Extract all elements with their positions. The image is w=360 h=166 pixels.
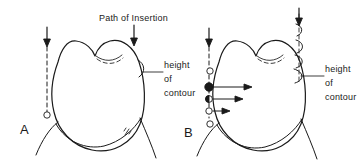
clasp-terminal-marker-a bbox=[44, 112, 50, 118]
occlusal-surface-line-a bbox=[96, 55, 122, 60]
panel-a: A height of contour bbox=[20, 25, 195, 158]
figure-title: Path of Insertion bbox=[99, 13, 168, 23]
panel-label-b: B bbox=[184, 125, 193, 140]
gingiva-center-a bbox=[56, 118, 141, 147]
figure-canvas: Path of Insertion bbox=[0, 0, 360, 166]
panel-b: B height of contour bbox=[184, 8, 356, 159]
gingiva-center-b bbox=[217, 119, 302, 148]
insertion-arrow-right-head-a bbox=[131, 38, 138, 46]
gingiva-right-a bbox=[140, 118, 156, 158]
height-of-contour-line1-b: height bbox=[325, 64, 351, 74]
height-of-contour-line1-a: height bbox=[164, 60, 190, 70]
gingiva-left-b bbox=[197, 123, 219, 156]
occlusal-surface-line-b bbox=[257, 55, 283, 60]
height-of-contour-line2-a: of bbox=[164, 74, 172, 84]
height-of-contour-line3-a: contour bbox=[164, 88, 195, 98]
insertion-arrow-left-head-b bbox=[206, 39, 213, 47]
gingiva-left-a bbox=[36, 122, 58, 155]
height-of-contour-line3-b: contour bbox=[325, 92, 356, 102]
undercut-arrow-2-head-b bbox=[235, 96, 243, 102]
gingiva-right-b bbox=[301, 119, 317, 159]
undercut-arrow-3-head-b bbox=[222, 108, 230, 114]
clasp-marker-5-b bbox=[207, 121, 213, 127]
dental-path-of-insertion-figure: Path of Insertion bbox=[0, 0, 360, 166]
clasp-marker-2-b bbox=[205, 83, 213, 91]
clasp-marker-4-b bbox=[206, 108, 212, 114]
insertion-arrow-left-head-a bbox=[44, 39, 51, 47]
clasp-marker-3-fill-b bbox=[206, 96, 209, 103]
clasp-marker-1-b bbox=[207, 68, 213, 74]
undercut-arrow-1-head-b bbox=[244, 84, 252, 90]
height-of-contour-line2-b: of bbox=[325, 78, 333, 88]
panel-label-a: A bbox=[20, 122, 29, 137]
